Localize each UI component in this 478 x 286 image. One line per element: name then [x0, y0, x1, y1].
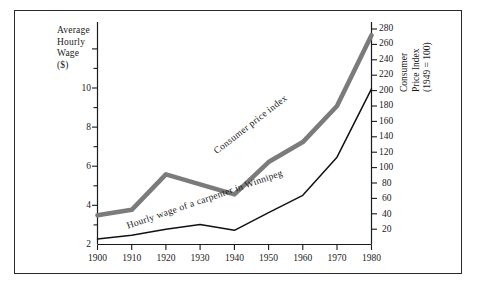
left-tick-8: 8 — [69, 122, 91, 132]
right-tick-120: 120 — [379, 147, 405, 157]
x-axis-ticks — [98, 245, 372, 251]
right-axis-ticks — [372, 29, 378, 229]
right-tick-60: 60 — [382, 193, 408, 203]
left-tick-4: 4 — [69, 200, 91, 210]
right-tick-100: 100 — [379, 162, 405, 172]
left-tick-2: 2 — [69, 239, 91, 249]
right-tick-20: 20 — [382, 224, 408, 234]
right-tick-80: 80 — [382, 178, 408, 188]
left-tick-10: 10 — [69, 83, 91, 93]
right-tick-180: 180 — [379, 100, 405, 110]
right-tick-40: 40 — [382, 209, 408, 219]
left-tick-6: 6 — [69, 161, 91, 171]
right-tick-140: 140 — [379, 131, 405, 141]
right-tick-240: 240 — [379, 54, 405, 64]
right-tick-280: 280 — [379, 23, 405, 33]
right-tick-160: 160 — [379, 116, 405, 126]
right-tick-200: 200 — [379, 85, 405, 95]
left-axis-ticks — [92, 49, 98, 225]
right-tick-220: 220 — [379, 69, 405, 79]
right-tick-260: 260 — [379, 38, 405, 48]
x-tick-1980: 1980 — [352, 253, 392, 263]
